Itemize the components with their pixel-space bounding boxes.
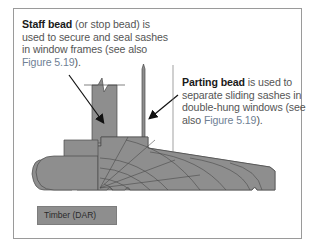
legend-label: Timber (DAR): [44, 210, 96, 220]
staff-bead-callout: Staff bead (or stop bead) is used to sec…: [22, 18, 172, 68]
sill-section: [32, 137, 275, 190]
parting-bead-description-end: ).: [256, 114, 262, 126]
parting-bead-arrow: [150, 95, 178, 118]
parting-bead-term: Parting bead: [182, 76, 245, 88]
parting-bead-callout: Parting bead is used to separate sliding…: [182, 76, 307, 126]
staff-bead-term: Staff bead: [22, 18, 72, 30]
legend-timber-swatch: Timber (DAR): [37, 206, 117, 225]
parting-bead-figure-ref[interactable]: Figure 5.19: [204, 114, 257, 126]
staff-bead-figure-ref[interactable]: Figure 5.19: [22, 56, 75, 68]
staff-bead-description-end: ).: [75, 56, 81, 68]
